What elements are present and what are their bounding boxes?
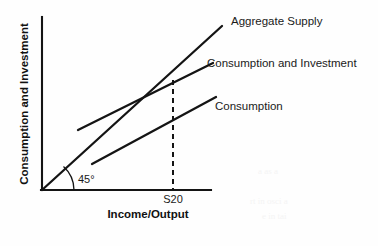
aggregate-supply-label: Aggregate Supply (231, 15, 323, 27)
y-axis-title: Consumption and Investment (18, 23, 30, 185)
keynesian-cross-figure: a as a rt in osci a e in tai 45° Aggrega… (0, 0, 378, 246)
consumption-line (92, 97, 216, 164)
x-tick-label-s20: S20 (163, 193, 183, 205)
angle-label: 45° (78, 173, 95, 185)
x-axis-title: Income/Output (107, 208, 188, 220)
diagram-canvas: 45° Aggregate Supply Consumption and Inv… (0, 0, 378, 246)
consumption-and-investment-line (78, 63, 213, 130)
consumption-and-investment-label: Consumption and Investment (207, 57, 357, 69)
consumption-label: Consumption (215, 100, 283, 112)
